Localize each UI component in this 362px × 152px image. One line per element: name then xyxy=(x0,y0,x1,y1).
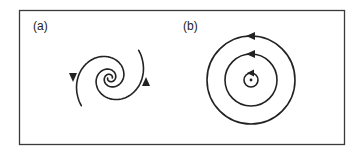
center-fixed-point xyxy=(250,79,253,82)
figure-frame xyxy=(20,11,345,145)
orbit-middle-arrow xyxy=(246,50,255,58)
spiral-arrow-left-down xyxy=(69,73,77,82)
spiral-arrow-right-up xyxy=(142,77,150,86)
orbit-outer-arrow xyxy=(246,32,255,40)
panel-b-center: (b) xyxy=(183,19,295,124)
panel-b-label: (b) xyxy=(183,19,198,33)
phase-portrait-figure: (a) (b) xyxy=(0,0,362,152)
panel-a-stable-spiral: (a) xyxy=(33,19,150,106)
panel-a-label: (a) xyxy=(33,19,48,33)
spiral-arm-2 xyxy=(96,50,143,99)
orbit-inner-arrow xyxy=(247,70,254,77)
spiral-arm-1 xyxy=(77,57,124,106)
